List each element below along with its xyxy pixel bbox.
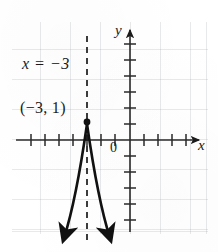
coordinate-plane xyxy=(0,0,218,252)
x-axis-label: x xyxy=(198,138,205,153)
y-axis-label: y xyxy=(115,23,122,38)
vertex-point-marker xyxy=(84,119,91,126)
parabola-left-branch xyxy=(64,124,87,238)
origin-label: 0 xyxy=(110,141,117,155)
axis-of-symmetry-label: x = −3 xyxy=(22,56,70,72)
x-axis xyxy=(16,134,199,146)
parabola-right-branch xyxy=(87,124,110,238)
parabola-figure: x = −3 (−3, 1) x y 0 xyxy=(0,0,218,252)
vertex-coordinate-label: (−3, 1) xyxy=(20,100,66,116)
y-axis xyxy=(124,30,136,232)
